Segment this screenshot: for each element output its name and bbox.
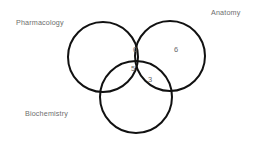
circle-biochemistry bbox=[100, 61, 172, 133]
set-label-anatomy: Anatomy bbox=[211, 9, 240, 16]
region-count-all-three: 5 bbox=[131, 65, 135, 73]
set-label-pharmacology: Pharmacology bbox=[16, 19, 64, 26]
venn-diagram: Pharmacology Anatomy Biochemistry 0 6 5 … bbox=[0, 0, 257, 144]
circle-anatomy bbox=[135, 21, 205, 91]
region-count-anatomy-only: 6 bbox=[174, 46, 178, 54]
set-label-biochemistry: Biochemistry bbox=[25, 110, 68, 117]
region-count-pharmacology-anatomy: 0 bbox=[133, 46, 137, 54]
region-count-anatomy-biochemistry: 3 bbox=[148, 76, 152, 84]
